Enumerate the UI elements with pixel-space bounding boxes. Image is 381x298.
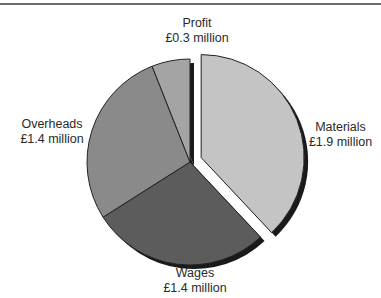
label-overheads-value: £1.4 million [12, 132, 92, 147]
label-materials-value: £1.9 million [300, 135, 381, 150]
label-wages-value: £1.4 million [145, 281, 245, 296]
label-materials-name: Materials [300, 120, 381, 135]
label-profit-name: Profit [152, 16, 242, 31]
label-profit-value: £0.3 million [152, 31, 242, 46]
label-wages: Wages £1.4 million [145, 266, 245, 296]
label-overheads: Overheads £1.4 million [12, 117, 92, 147]
label-wages-name: Wages [145, 266, 245, 281]
label-profit: Profit £0.3 million [152, 16, 242, 46]
label-materials: Materials £1.9 million [300, 120, 381, 150]
label-overheads-name: Overheads [12, 117, 92, 132]
